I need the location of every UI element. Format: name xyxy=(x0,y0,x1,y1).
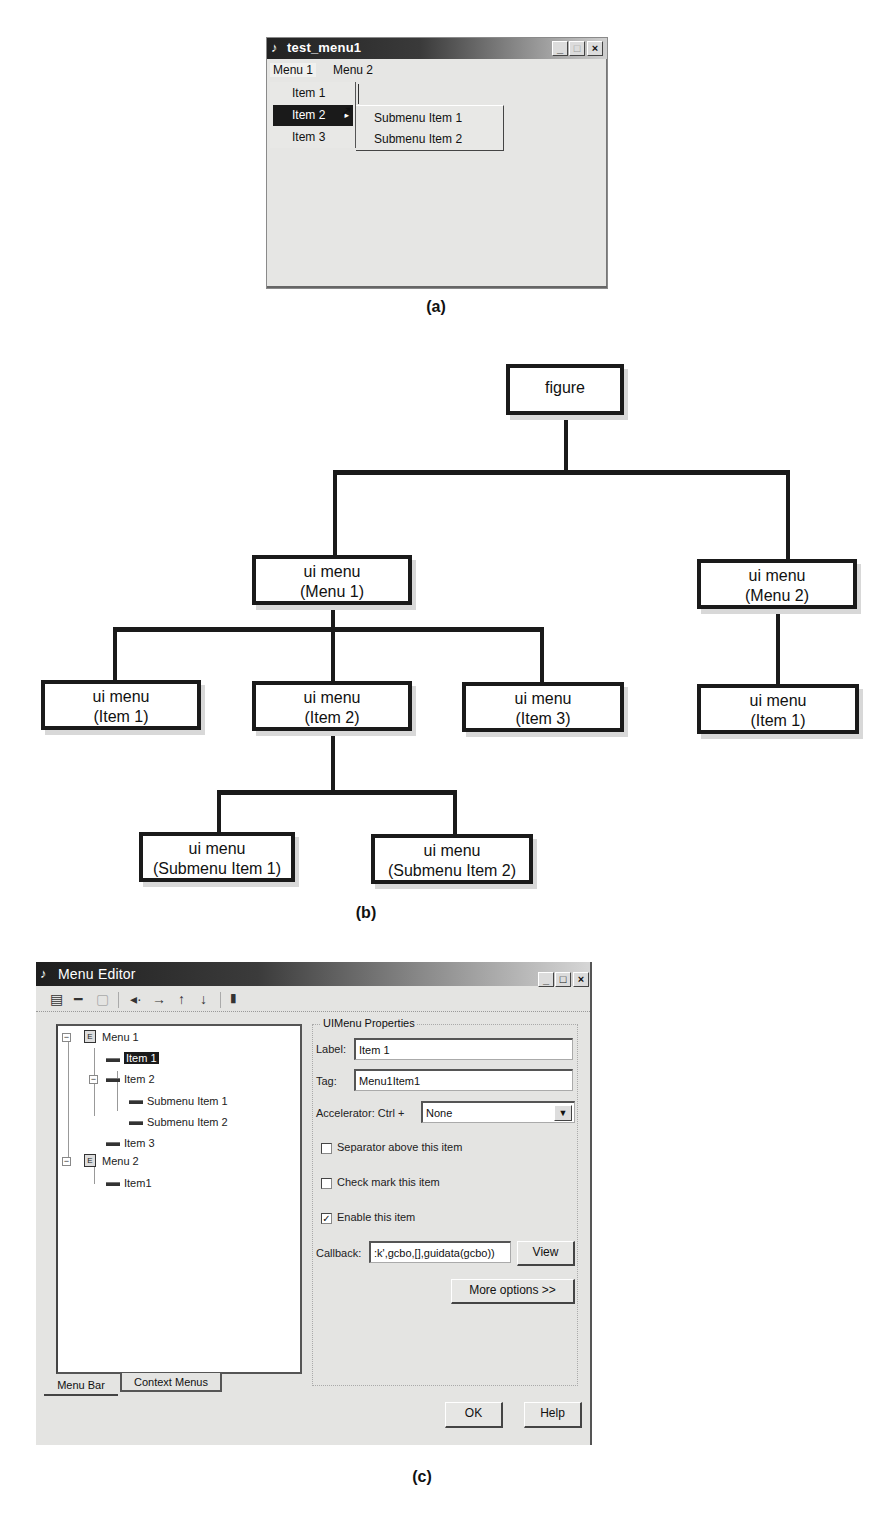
node-sub2-line2: (Submenu Item 2) xyxy=(375,861,529,881)
new-menu-icon[interactable]: ▤ xyxy=(50,991,63,1007)
tree-node-label: Item1 xyxy=(124,1177,152,1189)
label-input[interactable]: Item 1 xyxy=(354,1038,573,1060)
tree-guide xyxy=(68,1040,69,1160)
node-menu2-line1: ui menu xyxy=(701,566,853,586)
caption-c: (c) xyxy=(392,1468,452,1486)
minimize-button[interactable]: _ xyxy=(538,972,554,987)
node-menu1: ui menu (Menu 1) xyxy=(252,555,412,605)
node-sub2-line1: ui menu xyxy=(375,841,529,861)
node-submenu-item2: ui menu (Submenu Item 2) xyxy=(371,834,533,884)
tag-input[interactable]: Menu1Item1 xyxy=(354,1069,573,1091)
menu-item-icon xyxy=(106,1142,120,1146)
node-figure: figure xyxy=(506,364,624,415)
node-m2-item1-line1: ui menu xyxy=(701,691,855,711)
tree-node-label: Menu 2 xyxy=(102,1155,139,1167)
edge-to-menu1 xyxy=(333,470,337,558)
label-field-label: Label: xyxy=(316,1043,346,1055)
node-menu1-line1: ui menu xyxy=(256,562,408,582)
edge-to-item1 xyxy=(113,627,117,682)
node-m1-item1-line2: (Item 1) xyxy=(45,707,197,727)
edge-to-item2 xyxy=(331,627,335,682)
node-m1-item2-line1: ui menu xyxy=(256,688,408,708)
move-down-icon[interactable]: ↓ xyxy=(200,991,207,1007)
node-m1-item3-line1: ui menu xyxy=(466,689,620,709)
menu-icon: E xyxy=(84,1030,96,1043)
group-title: UIMenu Properties xyxy=(321,1017,417,1029)
move-left-icon[interactable]: ◂· xyxy=(130,991,142,1007)
edge-menu2-to-item1 xyxy=(776,608,780,686)
separator-checkbox[interactable] xyxy=(321,1143,332,1154)
more-options-button[interactable]: More options >> xyxy=(451,1279,575,1304)
view-button[interactable]: View xyxy=(517,1241,575,1266)
node-menu1-item2: ui menu (Item 2) xyxy=(252,681,412,731)
maximize-button[interactable]: □ xyxy=(555,972,571,987)
move-up-icon[interactable]: ↑ xyxy=(178,991,185,1007)
node-m1-item2-line2: (Item 2) xyxy=(256,708,408,728)
toolbar: ▤ ━ ▢ ◂· → ↑ ↓ ▮ xyxy=(36,988,590,1012)
tree-node-label: Submenu Item 2 xyxy=(147,1116,228,1128)
uimenu-properties-group: UIMenu Properties Label: Item 1 Tag: Men… xyxy=(312,1024,578,1386)
collapse-icon[interactable]: − xyxy=(62,1157,71,1166)
tree-node-label: Submenu Item 1 xyxy=(147,1095,228,1107)
tree-guide xyxy=(94,1166,95,1184)
collapse-icon[interactable]: − xyxy=(62,1033,71,1042)
tree-node-label: Menu 1 xyxy=(102,1031,139,1043)
new-menu-item-icon[interactable]: ━ xyxy=(74,991,82,1007)
move-right-icon[interactable]: → xyxy=(152,991,166,1007)
menu-item-icon xyxy=(129,1121,143,1125)
window-titlebar[interactable]: ♪ Menu Editor _ □ × xyxy=(36,962,590,986)
node-menu2: ui menu (Menu 2) xyxy=(697,559,857,609)
new-context-menu-icon[interactable]: ▢ xyxy=(96,991,109,1007)
tab-menu-bar[interactable]: Menu Bar xyxy=(44,1376,118,1396)
node-submenu-item1: ui menu (Submenu Item 1) xyxy=(139,832,295,882)
matlab-icon: ♪ xyxy=(40,966,47,981)
node-menu2-item1: ui menu (Item 1) xyxy=(697,684,859,734)
accelerator-value: None xyxy=(426,1107,452,1119)
collapse-icon[interactable]: − xyxy=(89,1075,98,1084)
edge-figure-bar xyxy=(333,470,790,475)
toolbar-separator xyxy=(118,992,119,1008)
accelerator-select[interactable]: None ▼ xyxy=(421,1101,575,1123)
callback-input[interactable]: :k',gcbo,[],guidata(gcbo)) xyxy=(369,1241,511,1263)
tree-node-label: Item 3 xyxy=(124,1137,155,1149)
enable-checkbox[interactable]: ✓ xyxy=(321,1213,332,1224)
node-menu2-line2: (Menu 2) xyxy=(701,586,853,606)
accelerator-label: Accelerator: Ctrl + xyxy=(316,1107,404,1119)
menu-icon: E xyxy=(84,1154,96,1167)
node-sub1-line2: (Submenu Item 1) xyxy=(143,859,291,879)
menu-item-icon xyxy=(129,1100,143,1104)
ok-button[interactable]: OK xyxy=(445,1402,503,1428)
node-m1-item1-line1: ui menu xyxy=(45,687,197,707)
node-menu1-line2: (Menu 1) xyxy=(256,582,408,602)
tab-context-menus[interactable]: Context Menus xyxy=(120,1372,222,1392)
toolbar-separator xyxy=(220,992,221,1008)
checkmark-checkbox[interactable] xyxy=(321,1178,332,1189)
node-m2-item1-line2: (Item 1) xyxy=(701,711,855,731)
edge-to-menu2 xyxy=(786,470,790,562)
node-menu1-item3: ui menu (Item 3) xyxy=(462,682,624,732)
uimenu-hierarchy-diagram: figure ui menu (Menu 1) ui menu (Menu 2)… xyxy=(0,0,895,960)
checkmark-checkbox-label: Check mark this item xyxy=(337,1176,440,1188)
edge-to-item3 xyxy=(540,627,544,684)
caption-b: (b) xyxy=(336,904,396,922)
edge-to-sub2 xyxy=(453,790,457,836)
tree-node-label: Item 1 xyxy=(124,1052,159,1064)
edge-to-sub1 xyxy=(217,790,221,834)
node-figure-label: figure xyxy=(545,379,585,396)
chevron-down-icon[interactable]: ▼ xyxy=(554,1105,572,1121)
help-button[interactable]: Help xyxy=(524,1402,582,1428)
menu-item-icon xyxy=(106,1182,120,1186)
node-menu1-item1: ui menu (Item 1) xyxy=(41,680,201,730)
tag-field-label: Tag: xyxy=(316,1075,337,1087)
node-sub1-line1: ui menu xyxy=(143,839,291,859)
delete-icon[interactable]: ▮ xyxy=(230,991,237,1005)
menu-tree[interactable]: − E Menu 1 Item 1 − Item 2 Submenu Item … xyxy=(56,1024,302,1374)
edge-menu1-bar xyxy=(113,627,542,632)
tree-guide xyxy=(117,1071,118,1111)
menu-item-icon xyxy=(106,1058,120,1062)
enable-checkbox-label: Enable this item xyxy=(337,1211,415,1223)
tree-node-label: Item 2 xyxy=(124,1073,155,1085)
edge-figure-down xyxy=(564,413,568,473)
edge-item2-bar xyxy=(217,790,457,795)
close-button[interactable]: × xyxy=(573,972,589,987)
